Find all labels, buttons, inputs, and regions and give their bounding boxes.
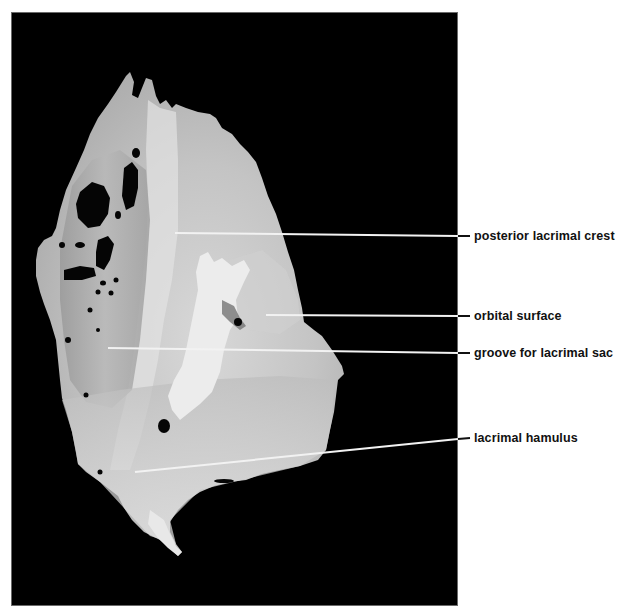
leader-tick-lacrimal-hamulus xyxy=(458,438,470,439)
page-leader-ticks xyxy=(458,236,470,439)
label-lacrimal-hamulus: lacrimal hamulus xyxy=(474,431,578,445)
anatomical-figure: posterior lacrimal crest orbital surface… xyxy=(0,0,643,615)
lacrimal-bone-illustration xyxy=(0,0,643,615)
label-orbital-surface: orbital surface xyxy=(474,309,562,323)
label-groove-for-lacrimal-sac: groove for lacrimal sac xyxy=(474,346,613,360)
leader-line-orbital-surface xyxy=(266,315,458,316)
label-posterior-lacrimal-crest: posterior lacrimal crest xyxy=(474,229,615,243)
